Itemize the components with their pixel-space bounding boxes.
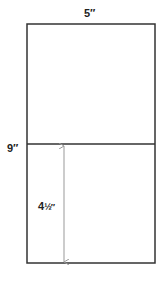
half-height-label: 4½″: [38, 201, 54, 212]
half-height-fraction: ½″: [44, 202, 54, 212]
height-label: 9″: [7, 143, 18, 154]
diagram-canvas: [0, 0, 165, 282]
width-label: 5″: [84, 8, 95, 19]
paper-fold-diagram: 5″ 9″ 4½″: [0, 0, 165, 282]
